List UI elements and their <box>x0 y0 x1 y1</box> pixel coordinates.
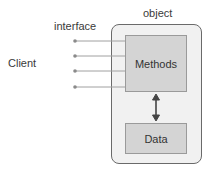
connectors <box>0 0 215 177</box>
interface-dots <box>73 39 77 89</box>
bidirectional-arrow-icon <box>153 94 160 121</box>
interface-lines <box>75 41 125 87</box>
